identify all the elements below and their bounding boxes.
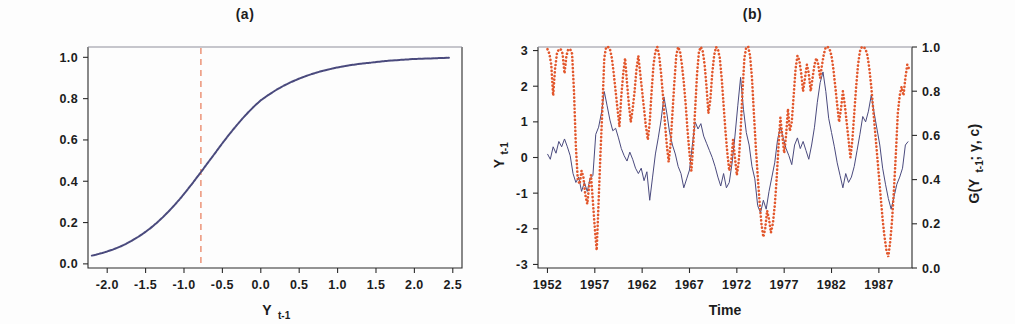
panel-b-x-tick-label: 1982: [817, 278, 846, 292]
panel-b-y-tick-label-left: 0: [521, 151, 528, 165]
panel-a-x-tick-label: -1.5: [134, 278, 157, 292]
panel-a-xlabel-main: Y: [262, 302, 272, 318]
panel-b-y-tick-label-left: 1: [521, 115, 528, 129]
panel-b-y-tick-label-right: 0.8: [922, 85, 941, 99]
panel-b: (b) -3-2-101230.00.20.40.60.81.019521957…: [490, 0, 1015, 324]
panel-a-xlabel: Yt-1: [262, 302, 290, 321]
panel-a-x-tick-label: -0.5: [211, 278, 234, 292]
panel-b-y-tick-label-right: 0.0: [922, 262, 941, 276]
panel-a-y-tick-label: 0.8: [59, 92, 78, 106]
panel-a-x-tick-label: 1.5: [367, 278, 386, 292]
panel-a-x-tick-label: -2.0: [96, 278, 119, 292]
panel-a-y-tick-label: 0.0: [59, 257, 78, 271]
panel-a-title: (a): [0, 6, 490, 22]
panel-b-title: (b): [490, 6, 1015, 22]
panel-b-y-tick-label-right: 0.4: [922, 173, 941, 187]
panel-b-x-tick-label: 1977: [769, 278, 798, 292]
panel-b-y-tick-label-left: -2: [516, 222, 528, 236]
panel-a-y-tick-label: 0.6: [59, 133, 78, 147]
panel-b-ylabel-left: Yt-1: [491, 142, 510, 168]
panel-b-ylabel-right: G(Yt-1; γ, c): [966, 124, 985, 204]
panel-b-ylabel-left-sub: t-1: [499, 142, 510, 155]
panel-a-xlabel-sub: t-1: [278, 310, 291, 321]
panel-a-frame: [88, 47, 462, 268]
panel-b-y-tick-label-left: -1: [516, 187, 528, 201]
panel-b-level-series: [547, 72, 908, 213]
panel-b-ylabel-right-tail: ; γ, c): [966, 124, 982, 161]
panel-b-x-tick-label: 1952: [533, 278, 562, 292]
panel-b-x-tick-label: 1962: [627, 278, 656, 292]
panel-a-x-tick-label: 0.0: [252, 278, 271, 292]
panel-a: (a) 0.00.20.40.60.81.0-2.0-1.5-1.0-0.50.…: [0, 0, 490, 324]
panel-a-x-tick-label: 0.5: [290, 278, 309, 292]
panel-a-y-tick-label: 0.2: [59, 216, 78, 230]
panel-b-transition-series: [547, 47, 909, 257]
panel-b-x-tick-label: 1967: [675, 278, 704, 292]
panel-a-x-tick-label: 1.0: [328, 278, 347, 292]
panel-b-y-tick-label-right: 1.0: [922, 41, 941, 55]
panel-b-ylabel-right-sub: t-1: [974, 160, 985, 173]
panel-b-x-tick-label: 1957: [580, 278, 609, 292]
figure-container: (a) 0.00.20.40.60.81.0-2.0-1.5-1.0-0.50.…: [0, 0, 1015, 324]
panel-a-y-tick-label: 1.0: [59, 51, 78, 65]
panel-a-x-tick-label: 2.5: [443, 278, 462, 292]
panel-b-ylabel-right-main: G(Y: [966, 178, 982, 204]
panel-b-x-tick-label: 1987: [864, 278, 893, 292]
panel-b-ylabel-left-main: Y: [491, 158, 507, 168]
panel-a-x-tick-label: -1.0: [172, 278, 195, 292]
panel-a-y-tick-label: 0.4: [59, 175, 78, 189]
panel-a-plot: 0.00.20.40.60.81.0-2.0-1.5-1.0-0.50.00.5…: [0, 0, 490, 324]
panel-b-y-tick-label-left: 3: [521, 44, 528, 58]
panel-a-x-tick-label: 2.0: [405, 278, 424, 292]
panel-a-logistic-curve: [92, 58, 449, 256]
panel-b-y-tick-label-left: 2: [521, 80, 528, 94]
panel-b-xlabel: Time: [709, 302, 742, 318]
panel-b-y-tick-label-right: 0.6: [922, 129, 941, 143]
panel-b-x-tick-label: 1972: [722, 278, 751, 292]
panel-b-y-tick-label-left: -3: [516, 258, 528, 272]
panel-b-y-tick-label-right: 0.2: [922, 217, 941, 231]
panel-b-plot: -3-2-101230.00.20.40.60.81.0195219571962…: [490, 0, 1015, 324]
